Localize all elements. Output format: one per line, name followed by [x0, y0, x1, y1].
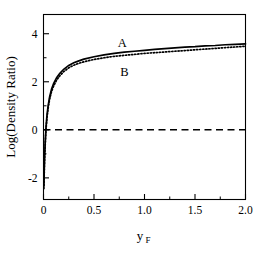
chart-background: [0, 0, 261, 254]
x-axis-label-subscript: F: [145, 235, 150, 245]
curve-a-annotation: A: [118, 36, 127, 50]
chart-figure: 00.51.01.52.0 -2024 A B Log(Density Rati…: [0, 0, 261, 254]
y-axis-label: Log(Density Ratio): [3, 56, 18, 157]
x-tick-label: 1.5: [188, 204, 203, 216]
curve-b-annotation: B: [120, 65, 128, 79]
y-tick-label: 0: [32, 124, 38, 136]
y-tick-label: 2: [32, 76, 38, 88]
x-tick-label: 1.0: [137, 204, 152, 216]
x-tick-label: 0: [41, 204, 47, 216]
x-tick-label: 2.0: [238, 204, 253, 216]
y-tick-label: -2: [28, 172, 38, 184]
density-ratio-line-chart: 00.51.01.52.0 -2024 A B Log(Density Rati…: [0, 0, 261, 254]
x-tick-label: 0.5: [87, 204, 102, 216]
y-tick-label: 4: [32, 28, 38, 40]
x-axis-label-base: y: [137, 228, 144, 243]
